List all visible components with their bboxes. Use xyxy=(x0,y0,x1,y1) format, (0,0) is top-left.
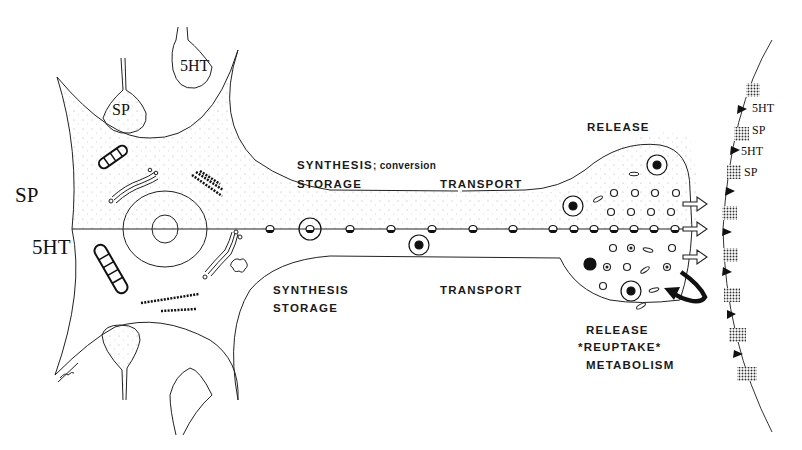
5ht-receptors xyxy=(722,105,747,358)
label-reuptake: *REUPTAKE* xyxy=(578,341,661,353)
soma-label-sp: SP xyxy=(15,183,38,208)
synthesis-conversion: ; conversion xyxy=(373,160,436,171)
terminal-sp-bottom xyxy=(102,325,140,400)
artist-signature xyxy=(58,363,78,382)
receptor-label-sp-2: SP xyxy=(744,165,757,180)
label-release-upper: RELEASE xyxy=(587,121,650,133)
label-transport-lower: TRANSPORT xyxy=(440,284,522,296)
reuptake-arrow xyxy=(664,272,705,301)
label-storage-lower: STORAGE xyxy=(273,302,338,314)
neuron-drawing xyxy=(0,0,802,450)
label-transport-upper: TRANSPORT xyxy=(440,178,522,190)
terminal-sp-top xyxy=(103,58,146,133)
label-storage-upper: STORAGE xyxy=(297,178,362,190)
label-metabolism: METABOLISM xyxy=(586,359,674,371)
axis-vesicle-fills xyxy=(266,230,679,233)
mitochondrion-lower xyxy=(92,243,129,296)
receptor-label-5ht-2: 5HT xyxy=(741,144,763,159)
label-synthesis-upper: SYNTHESIS; conversion xyxy=(297,159,436,171)
label-release-lower: RELEASE xyxy=(586,324,649,336)
terminal-bottom-right xyxy=(170,368,212,435)
receptor-label-sp-1: SP xyxy=(752,123,765,138)
neuron-diagram: SP 5HT SP 5HT SYNTHESIS; conversion STOR… xyxy=(0,0,802,450)
terminal-label-sp: SP xyxy=(112,101,130,119)
label-synthesis-lower: SYNTHESIS xyxy=(273,284,349,296)
synthesis-main: SYNTHESIS xyxy=(297,159,373,171)
terminal-label-5ht: 5HT xyxy=(180,57,209,75)
golgi-lower xyxy=(203,230,247,279)
soma-label-5ht: 5HT xyxy=(32,235,71,260)
receptor-label-5ht-1: 5HT xyxy=(752,101,774,116)
soma-upper-fill xyxy=(57,50,700,229)
soma-outline-lower xyxy=(55,229,692,400)
